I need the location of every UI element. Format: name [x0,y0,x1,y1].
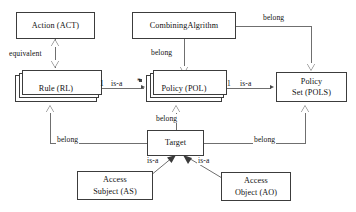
edge-target-policy-arrowhead [172,106,180,113]
node-action[interactable]: Action (ACT) [16,12,95,39]
node-access-subject-label-line2: Subject (AS) [91,186,139,197]
edge-rule-policy-line [100,88,144,89]
node-combining-algrithm[interactable]: CombiningAlgrithm [132,12,236,39]
edge-label-belong-calg-policy: belong [150,48,173,57]
class-diagram-canvas: Action (ACT) CombiningAlgrithm Rule (RL)… [0,0,356,212]
edge-rule-policy-target-multiplicity: * [137,77,141,86]
node-policy-set[interactable]: Policy Set (POLS) [276,72,347,102]
node-rule[interactable]: Rule (RL) [15,75,97,102]
edge-label-belong-target-policy: belong [155,114,178,123]
edge-calg-policy-line [184,39,185,67]
node-rule-label: Rule (RL) [37,83,75,94]
edge-policy-policyset-arrowhead [270,85,274,89]
node-policy-label: Policy (POL) [159,83,208,94]
edge-calg-policyset-vline [311,26,312,64]
node-action-label: Action (ACT) [30,20,81,31]
edge-label-is-a-policy-policyset: is-a [239,79,252,88]
node-policy[interactable]: Policy (POL) [146,75,222,102]
edge-label-equivalent: equivalent [8,49,43,58]
node-access-subject-label-line1: Access [101,174,129,185]
node-combining-algrithm-label: CombiningAlgrithm [148,20,221,31]
edge-rule-policy-source-multiplicity: 1 [100,79,104,88]
node-access-object-label-line1: Access [242,175,270,186]
node-target[interactable]: Target [147,130,204,156]
node-policy-set-label-line1: Policy [299,76,325,87]
edge-label-is-a-rule-policy: is-a [110,79,123,88]
edge-policy-policyset-source-multiplicity: 1 [227,79,231,88]
node-access-object[interactable]: Access Object (AO) [221,172,291,201]
edge-target-rule-arrowhead [46,106,54,113]
edge-act-rule-tail [51,60,59,67]
edge-label-belong-target-rule: belong [56,135,79,144]
edge-rule-policy-arrowhead [141,85,145,89]
edge-act-rule-arrowhead [51,40,59,47]
edge-calg-policyset-hline [236,26,312,27]
edge-label-belong-target-policyset: belong [253,135,276,144]
edge-label-is-a-as-target: is-a [146,156,159,165]
edge-target-policyset-arrowhead [301,106,309,113]
edge-label-belong-calg-policyset: belong [262,13,285,22]
node-access-subject[interactable]: Access Subject (AS) [77,171,153,200]
edge-target-policyset-vline [305,112,306,143]
node-policy-set-label-line2: Set (POLS) [290,87,333,98]
edge-calg-policyset-arrowhead [307,63,315,70]
node-access-object-label-line2: Object (AO) [233,187,279,198]
edge-policy-policyset-line [226,88,271,89]
edge-label-is-a-ao-target: is-a [197,156,210,165]
node-target-label: Target [163,137,188,148]
edge-target-rule-vline [50,112,51,143]
